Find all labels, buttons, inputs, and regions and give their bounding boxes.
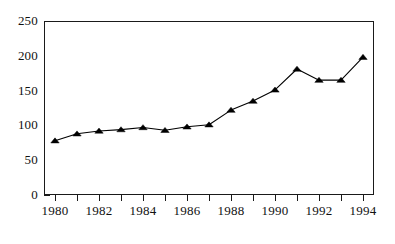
data-point-marker [293, 66, 301, 71]
data-point-marker [359, 54, 367, 59]
data-point-marker [227, 107, 235, 112]
data-series-layer [0, 0, 395, 244]
data-point-marker [139, 125, 147, 130]
series-line [55, 57, 363, 141]
series-markers [51, 54, 367, 143]
data-point-marker [51, 138, 59, 143]
line-chart: 050100150200250 198019821984198619881990… [0, 0, 395, 244]
